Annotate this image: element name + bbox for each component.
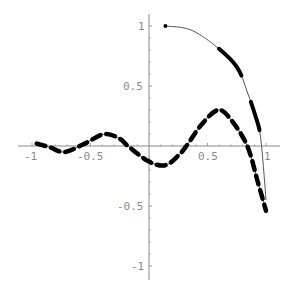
- oscillating-curve-thick-segments: [37, 110, 266, 211]
- x-tick-label: -1: [24, 150, 37, 163]
- data-curves: [37, 26, 266, 211]
- x-tick-label: 0.5: [198, 150, 218, 163]
- y-tick-label: 0.5: [123, 80, 143, 93]
- x-tick-label: 1: [264, 150, 271, 163]
- chart-plot: -1 -0.5 0.5 1 1 0.5 -0.5 -1: [0, 0, 290, 293]
- y-tick-label: 1: [138, 20, 145, 33]
- y-tick-label: -1: [131, 260, 144, 273]
- y-tick-label: -0.5: [117, 200, 144, 213]
- x-tick-label: -0.5: [77, 150, 104, 163]
